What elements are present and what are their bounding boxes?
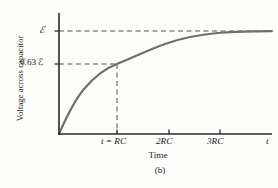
x-tick-label-rc: t = RC <box>101 137 126 146</box>
y-tick-label-emf: ℰ <box>39 25 45 35</box>
charging-curve <box>59 31 272 134</box>
figure-caption: (b) <box>130 166 190 175</box>
y-axis-title: Voltage across capacitor <box>16 13 25 143</box>
x-axis-symbol: t <box>266 137 269 146</box>
y-tick-label-063-emf: 0.63 ℰ <box>20 58 43 67</box>
x-tick-label-2rc: 2RC <box>156 137 172 146</box>
x-tick-label-3rc: 3RC <box>207 137 223 146</box>
figure-container: Voltage across capacitor ℰ 0.63 ℰ t = RC… <box>0 0 278 188</box>
x-axis-title: Time <box>118 151 198 160</box>
